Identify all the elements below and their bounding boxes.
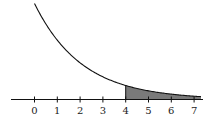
density-curve-figure: 01234567 [0, 0, 213, 123]
x-tick-label: 4 [123, 105, 129, 116]
x-tick-label: 6 [168, 105, 174, 116]
x-tick-label: 7 [191, 105, 197, 116]
x-tick-label: 1 [54, 105, 60, 116]
x-tick-label: 0 [31, 105, 37, 116]
x-tick-label: 2 [77, 105, 83, 116]
x-axis-labels: 01234567 [31, 105, 197, 116]
decay-curve [35, 4, 201, 97]
shaded-tail-area [126, 86, 201, 100]
x-tick-label: 3 [100, 105, 106, 116]
plot-canvas: 01234567 [0, 0, 213, 123]
x-tick-label: 5 [145, 105, 151, 116]
